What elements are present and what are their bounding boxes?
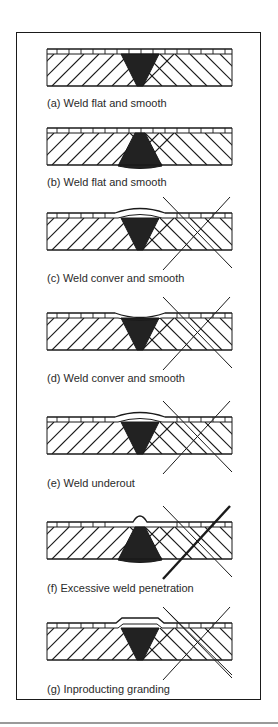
panel-a-diagram bbox=[0, 40, 278, 100]
panel-g-diagram bbox=[0, 604, 278, 682]
cross-out-icon bbox=[163, 297, 232, 370]
cross-out-icon bbox=[163, 197, 232, 270]
weld-quality-figure: (a) Weld flat and smooth (b) Weld flat a… bbox=[0, 0, 278, 727]
panel-c-diagram bbox=[0, 192, 278, 272]
weld-plate-a bbox=[7, 49, 278, 86]
cross-out-icon bbox=[163, 506, 232, 579]
weld-plate-f bbox=[7, 506, 278, 579]
panel-f-caption: (f) Excessive weld penetration bbox=[47, 582, 194, 595]
weld-plate-c bbox=[7, 197, 278, 270]
panel-b-diagram bbox=[0, 118, 278, 180]
weld-plate-g bbox=[7, 607, 278, 680]
weld-plate-d bbox=[7, 297, 278, 370]
panel-b-caption: (b) Weld flat and smooth bbox=[47, 176, 167, 189]
cross-out-icon bbox=[163, 607, 232, 680]
panel-e-diagram bbox=[0, 395, 278, 475]
weld-plate-e bbox=[7, 401, 278, 474]
panel-e-caption: (e) Weld underout bbox=[47, 477, 135, 490]
panel-c-caption: (c) Weld conver and smooth bbox=[47, 272, 184, 285]
bottom-rule bbox=[0, 722, 278, 724]
panel-f-diagram bbox=[0, 503, 278, 581]
cross-out-icon bbox=[163, 401, 232, 474]
panel-g-caption: (g) Inproducting granding bbox=[47, 683, 170, 696]
panel-a-caption: (a) Weld flat and smooth bbox=[47, 97, 167, 110]
panel-d-caption: (d) Weld conver and smooth bbox=[47, 372, 185, 385]
weld-plate-b bbox=[7, 128, 278, 169]
panel-d-diagram bbox=[0, 292, 278, 372]
